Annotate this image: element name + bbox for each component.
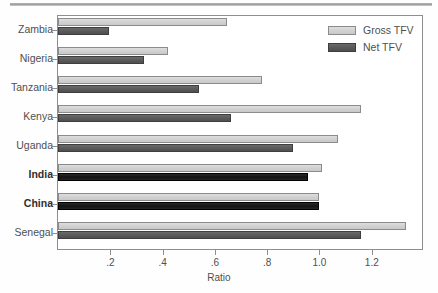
y-tick-tanzania xyxy=(52,88,57,89)
y-axis-label-uganda: Uganda xyxy=(0,140,53,151)
bar-net-tanzania xyxy=(58,85,199,93)
bar-gross-nigeria xyxy=(58,47,168,55)
legend-label-gross: Gross TFV xyxy=(363,24,414,36)
bar-gross-senegal xyxy=(58,222,406,230)
y-axis-label-nigeria: Nigeria xyxy=(0,53,53,64)
bar-group-india xyxy=(58,162,422,189)
x-tick-1.0 xyxy=(319,250,320,255)
y-axis-label-china: China xyxy=(0,198,53,209)
bar-gross-tanzania xyxy=(58,76,262,84)
y-tick-zambia xyxy=(52,30,57,31)
x-axis-title: Ratio xyxy=(0,272,438,283)
chart-legend: Gross TFVNet TFV xyxy=(328,24,414,53)
y-tick-senegal xyxy=(52,233,57,234)
bar-net-india xyxy=(58,173,308,181)
y-tick-uganda xyxy=(52,146,57,147)
y-axis-label-senegal: Senegal xyxy=(0,227,53,238)
y-tick-nigeria xyxy=(52,59,57,60)
bar-group-china xyxy=(58,191,422,218)
y-axis-label-zambia: Zambia xyxy=(0,24,53,35)
bar-net-china xyxy=(58,202,319,210)
legend-label-net: Net TFV xyxy=(363,41,402,53)
bar-group-uganda xyxy=(58,133,422,160)
chart-figure: ZambiaNigeriaTanzaniaKenyaUgandaIndiaChi… xyxy=(0,0,438,293)
bar-net-kenya xyxy=(58,114,231,122)
y-axis-label-tanzania: Tanzania xyxy=(0,82,53,93)
bar-gross-china xyxy=(58,193,319,201)
bar-gross-kenya xyxy=(58,105,361,113)
y-axis-label-kenya: Kenya xyxy=(0,111,53,122)
y-axis-label-india: India xyxy=(0,169,53,180)
bar-net-nigeria xyxy=(58,56,144,64)
legend-swatch-net xyxy=(328,43,356,52)
bar-gross-india xyxy=(58,164,322,172)
x-tick-label-.8: .8 xyxy=(263,257,271,268)
x-tick-label-1.2: 1.2 xyxy=(365,257,379,268)
bar-group-kenya xyxy=(58,103,422,130)
x-tick-label-.4: .4 xyxy=(158,257,166,268)
bar-gross-uganda xyxy=(58,135,338,143)
x-tick-label-.6: .6 xyxy=(211,257,219,268)
x-tick-.8 xyxy=(267,250,268,255)
y-tick-india xyxy=(52,175,57,176)
bar-net-zambia xyxy=(58,27,109,35)
bar-net-senegal xyxy=(58,231,361,239)
x-tick-.4 xyxy=(163,250,164,255)
legend-swatch-gross xyxy=(328,26,356,35)
header-rule xyxy=(10,3,432,6)
bar-gross-zambia xyxy=(58,18,227,26)
y-axis-labels: ZambiaNigeriaTanzaniaKenyaUgandaIndiaChi… xyxy=(0,15,53,250)
x-tick-.2 xyxy=(110,250,111,255)
y-tick-china xyxy=(52,204,57,205)
bar-group-senegal xyxy=(58,220,422,247)
x-tick-.6 xyxy=(215,250,216,255)
legend-item-gross: Gross TFV xyxy=(328,24,414,36)
x-tick-label-.2: .2 xyxy=(106,257,114,268)
x-tick-1.2 xyxy=(372,250,373,255)
y-tick-kenya xyxy=(52,117,57,118)
x-tick-label-1.0: 1.0 xyxy=(313,257,327,268)
bar-group-tanzania xyxy=(58,74,422,101)
legend-item-net: Net TFV xyxy=(328,41,414,53)
bar-net-uganda xyxy=(58,144,293,152)
